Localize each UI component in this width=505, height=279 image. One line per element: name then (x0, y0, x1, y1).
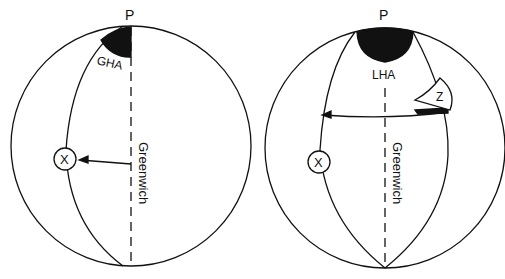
left-arrowhead (79, 156, 88, 163)
zenith-angle (415, 78, 452, 110)
left-greenwich-label: Greenwich (136, 142, 151, 204)
right-lha-label: LHA (372, 68, 395, 82)
lha-sector (357, 28, 413, 62)
left-pole-label: P (125, 7, 134, 23)
left-body-label: X (60, 152, 69, 167)
right-body-label: X (314, 155, 323, 170)
right-greenwich-label: Greenwich (390, 142, 405, 204)
right-sphere (265, 28, 505, 268)
right-lha-base (415, 108, 448, 114)
zenith-label: Z (436, 90, 443, 104)
hour-angle-diagram: P GHA Greenwich X P LHA Z Greenwich X (0, 0, 505, 279)
right-pole-label: P (379, 7, 388, 23)
left-gha-label: GHA (96, 53, 124, 72)
left-sphere (11, 26, 251, 266)
